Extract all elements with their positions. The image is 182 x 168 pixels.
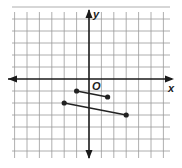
y-axis-up-arrow-icon — [86, 9, 93, 18]
endpoint-dot — [105, 94, 110, 99]
x-axis-left-arrow-icon — [8, 76, 17, 83]
coordinate-plane: y x O — [0, 0, 182, 168]
endpoint-dot — [62, 100, 67, 105]
y-axis-label: y — [92, 8, 100, 20]
endpoint-dot — [74, 88, 79, 93]
endpoint-dot — [124, 112, 129, 117]
x-axis-label: x — [167, 82, 175, 94]
grid-lines — [12, 7, 170, 158]
axes — [8, 9, 174, 159]
y-axis-down-arrow-icon — [86, 150, 93, 159]
long-segment — [64, 103, 126, 115]
origin-label: O — [92, 80, 101, 92]
